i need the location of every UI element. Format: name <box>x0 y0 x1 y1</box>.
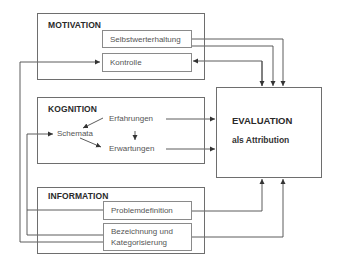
schemata-label: Schemata <box>57 129 93 138</box>
kognition-title: KOGNITION <box>48 104 97 114</box>
bezeichnung-label: Bezeichnung und <box>111 226 191 237</box>
selbstwerterhaltung-label: Selbstwerterhaltung <box>110 34 191 45</box>
evaluation-box <box>216 87 322 178</box>
kategorisierung-label: Kategorisierung <box>111 237 191 248</box>
erfahrungen-label: Erfahrungen <box>109 114 153 123</box>
problemdefinition-box: Problemdefinition <box>103 201 192 220</box>
motivation-title: MOTIVATION <box>48 20 101 30</box>
selbstwerterhaltung-box: Selbstwerterhaltung <box>102 30 192 48</box>
erwartungen-label: Erwartungen <box>109 144 154 153</box>
kontrolle-box: Kontrolle <box>102 53 192 72</box>
evaluation-subtitle: als Attribution <box>232 135 289 145</box>
kontrolle-label: Kontrolle <box>110 57 191 68</box>
bezeichnung-box: Bezeichnung und Kategorisierung <box>103 223 192 251</box>
information-title: INFORMATION <box>48 191 108 201</box>
problemdefinition-label: Problemdefinition <box>111 205 191 216</box>
evaluation-title: EVALUATION <box>232 115 292 126</box>
